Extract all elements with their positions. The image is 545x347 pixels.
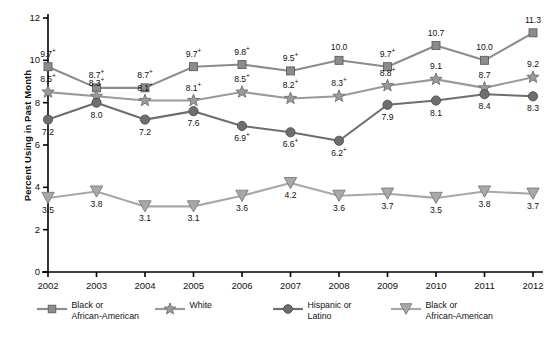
data-label: 3.6 [236,203,248,213]
x-tick-label: 2005 [174,280,214,291]
data-label: 3.7 [382,201,394,211]
y-tick-label: 0 [16,266,40,277]
data-label: 8.2+ [283,80,299,90]
x-tick-label: 2002 [28,280,68,291]
data-label: 7.6 [188,118,200,128]
data-label: 8.1+ [186,83,202,93]
data-label: 3.7 [527,201,539,211]
data-label: 8.0 [91,110,103,120]
legend-label: Black or African-American [426,300,493,321]
data-label: 8.3+ [331,78,347,88]
x-tick-label: 2008 [319,280,359,291]
legend-marker-triangle-down-icon [391,301,421,317]
data-label: 8.1 [430,108,442,118]
x-tick-label: 2010 [416,280,456,291]
data-label: 3.1 [188,213,200,223]
data-label: 3.8 [91,199,103,209]
legend-item-1[interactable]: White [155,300,273,317]
data-label: 7.9 [382,112,394,122]
x-tick-label: 2009 [368,280,408,291]
x-tick-label: 2003 [77,280,117,291]
x-tick-label: 2007 [271,280,311,291]
data-label: 10.0 [476,42,493,52]
chart-legend: Black or African-AmericanWhiteHispanic o… [0,300,545,321]
y-tick-label: 12 [16,12,40,23]
data-label: 10.0 [331,42,348,52]
data-label: 9.1 [430,61,442,71]
data-label: 3.5 [430,205,442,215]
data-label: 7.2 [139,127,151,137]
data-label: 11.3 [525,15,541,25]
y-tick-label: 4 [16,181,40,192]
data-label: 3.1 [139,213,151,223]
legend-item-3[interactable]: Black or African-American [391,300,509,321]
data-label: 4.2 [285,190,297,200]
legend-item-2[interactable]: Hispanic or Latino [273,300,391,321]
y-tick-label: 10 [16,54,40,65]
data-label: 8.8+ [380,68,396,78]
data-label: 8.5+ [40,74,56,84]
data-label: 8.3+ [89,78,105,88]
legend-label: Hispanic or Latino [308,300,352,321]
y-tick-label: 8 [16,97,40,108]
data-label: 10.7 [428,28,445,38]
y-tick-label: 2 [16,224,40,235]
data-label: 8.4 [479,101,491,111]
data-label: 8.3 [527,103,539,113]
x-tick-label: 2011 [465,280,505,291]
x-tick-label: 2012 [513,280,545,291]
data-label: 7.2 [42,127,54,137]
chart-container: Percent Using in Past Month 024681012 20… [0,0,545,347]
legend-item-0[interactable]: Black or African-American [37,300,155,321]
legend-marker-circle-icon [273,301,303,317]
data-label: 8.5+ [234,74,250,84]
data-label: 9.5+ [283,53,299,63]
legend-marker-star-icon [155,301,185,317]
plot-area [0,0,545,300]
data-label: 6.6+ [283,139,299,149]
legend-label: Black or African-American [72,300,139,321]
data-label: 6.2+ [331,148,347,158]
data-label: 6.9+ [234,133,250,143]
data-label: 3.6 [333,203,345,213]
data-label: 9.2 [527,59,539,69]
data-label: 3.8 [479,199,491,209]
data-label: 3.5 [42,205,54,215]
legend-label: White [190,300,213,311]
data-label: 9.7+ [186,49,202,59]
data-label: 9.7+ [40,49,56,59]
data-label: 9.8+ [234,47,250,57]
y-tick-label: 6 [16,139,40,150]
data-label: 8.7 [479,70,491,80]
x-tick-label: 2006 [222,280,262,291]
data-label: 9.7+ [380,49,396,59]
data-label: 8.7+ [137,70,153,80]
x-tick-label: 2004 [125,280,165,291]
data-label: 8.1+ [137,83,153,93]
legend-marker-square-icon [37,301,67,317]
